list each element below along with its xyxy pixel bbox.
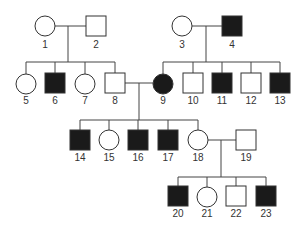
individual-10-male-unaffected	[183, 73, 203, 93]
individual-3-female-unaffected	[172, 16, 192, 36]
pedigree-diagram: 1 2 3 4 5 6 7 8 9 10 11 12 13 14 15 16 1…	[0, 0, 304, 231]
label-13: 13	[274, 95, 286, 106]
label-4: 4	[229, 39, 235, 50]
individual-1-female-unaffected	[35, 16, 55, 36]
label-5: 5	[23, 95, 29, 106]
label-12: 12	[245, 95, 257, 106]
label-15: 15	[103, 152, 115, 163]
individual-17-male-affected	[158, 130, 178, 150]
individual-2-male-unaffected	[86, 16, 106, 36]
individual-22-male-unaffected	[226, 186, 246, 206]
individual-labels: 1 2 3 4 5 6 7 8 9 10 11 12 13 14 15 16 1…	[23, 39, 286, 219]
individual-20-male-affected	[168, 186, 188, 206]
label-3: 3	[179, 39, 185, 50]
individual-5-female-unaffected	[16, 74, 36, 94]
individual-12-male-unaffected	[241, 73, 261, 93]
label-21: 21	[201, 208, 213, 219]
individual-6-male-affected	[45, 73, 65, 93]
individual-18-female-unaffected	[188, 130, 208, 150]
label-8: 8	[112, 95, 118, 106]
label-19: 19	[240, 152, 252, 163]
label-20: 20	[172, 208, 184, 219]
label-16: 16	[132, 152, 144, 163]
individual-13-male-affected	[270, 73, 290, 93]
label-23: 23	[260, 208, 272, 219]
individual-9-female-affected	[153, 74, 173, 94]
individual-8-male-unaffected	[105, 73, 125, 93]
label-14: 14	[74, 152, 86, 163]
label-11: 11	[217, 95, 228, 106]
individual-15-female-unaffected	[99, 130, 119, 150]
individual-21-female-unaffected	[197, 187, 217, 207]
individual-23-male-affected	[256, 186, 276, 206]
label-17: 17	[162, 152, 174, 163]
label-10: 10	[187, 95, 199, 106]
individual-11-male-affected	[212, 73, 232, 93]
individual-4-male-affected	[222, 16, 242, 36]
label-9: 9	[160, 95, 166, 106]
label-6: 6	[52, 95, 58, 106]
label-7: 7	[82, 95, 88, 106]
individual-14-male-affected	[70, 130, 90, 150]
label-22: 22	[230, 208, 242, 219]
individual-19-male-unaffected	[236, 130, 256, 150]
individual-7-female-unaffected	[75, 74, 95, 94]
pedigree-canvas: 1 2 3 4 5 6 7 8 9 10 11 12 13 14 15 16 1…	[0, 0, 304, 231]
individual-16-male-affected	[128, 130, 148, 150]
label-1: 1	[42, 39, 48, 50]
label-18: 18	[192, 152, 204, 163]
label-2: 2	[93, 39, 99, 50]
